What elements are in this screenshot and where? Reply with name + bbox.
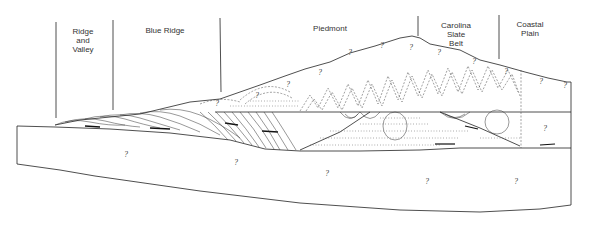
label-coastal-2: Plain — [521, 29, 539, 38]
question-mark: ? — [425, 177, 429, 186]
question-mark: ? — [563, 81, 567, 90]
label-blue-ridge: Blue Ridge — [145, 26, 185, 35]
question-mark: ? — [215, 99, 219, 108]
lower-folds — [300, 110, 520, 150]
label-ridge-valley-3: Valley — [72, 45, 93, 54]
province-boundaries — [56, 15, 499, 118]
question-mark: ? — [318, 68, 322, 77]
question-mark: ? — [234, 158, 238, 167]
fault-markers — [435, 126, 555, 145]
unknown-markers: ? ? ? ? ? ? ? ? ? ? ? ? ? ? ? ? ? ? — [124, 41, 567, 186]
question-mark: ? — [348, 48, 352, 57]
question-mark: ? — [539, 77, 543, 86]
label-carolina-1: Carolina — [441, 21, 471, 30]
label-ridge-valley-2: and — [76, 36, 89, 45]
question-mark: ? — [504, 67, 508, 76]
question-mark: ? — [437, 48, 441, 57]
question-mark: ? — [124, 150, 128, 159]
question-mark: ? — [472, 57, 476, 66]
label-carolina-2: Slate — [447, 30, 466, 39]
province-labels: Ridge and Valley Blue Ridge Piedmont Car… — [72, 20, 543, 54]
question-mark: ? — [255, 91, 259, 100]
cross-section-diagram: Ridge and Valley Blue Ridge Piedmont Car… — [0, 0, 589, 233]
thrust-sheets — [55, 109, 278, 138]
question-mark: ? — [325, 169, 329, 178]
question-mark: ? — [409, 43, 413, 52]
question-mark: ? — [286, 80, 290, 89]
label-piedmont: Piedmont — [313, 24, 348, 33]
question-mark: ? — [514, 177, 518, 186]
label-coastal-1: Coastal — [516, 20, 543, 29]
label-ridge-valley-1: Ridge — [73, 27, 94, 36]
question-mark: ? — [543, 124, 547, 133]
folded-strata — [200, 66, 520, 111]
label-carolina-3: Belt — [449, 39, 464, 48]
question-mark: ? — [380, 41, 384, 50]
